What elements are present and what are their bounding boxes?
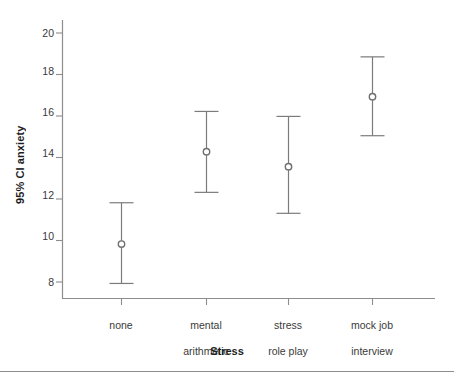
- y-axis-ticks: [56, 33, 62, 282]
- x-tick-label-line: none: [109, 319, 132, 331]
- error-bar-point: [195, 111, 219, 192]
- x-axis-tick-labels: none mental arithmetic stress role play …: [0, 306, 454, 346]
- error-bar-point: [110, 203, 134, 284]
- error-bar-point: [361, 57, 385, 136]
- error-bar-chart: 95% CI anxiety 20 18 16 14 12 10 8: [0, 0, 454, 384]
- mean-marker: [118, 241, 124, 247]
- mean-marker: [285, 163, 291, 169]
- mean-marker: [369, 94, 375, 100]
- x-tick-label-line: mental: [190, 319, 222, 331]
- mean-marker: [203, 148, 209, 154]
- x-tick-label-line: mock job: [351, 319, 393, 331]
- footer-divider: [0, 371, 454, 372]
- error-bar-point: [277, 116, 301, 213]
- x-tick-label-line: stress: [274, 319, 302, 331]
- data-series-layer: [110, 57, 385, 284]
- x-tick-label-none: none: [78, 306, 164, 332]
- x-axis-ticks: [122, 299, 373, 305]
- x-axis-title: Stress: [0, 345, 454, 357]
